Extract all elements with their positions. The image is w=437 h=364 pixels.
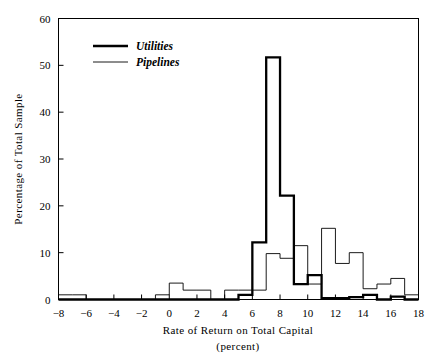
x-axis-tick-labels: −8−6−4−2024681012141618 <box>53 307 425 319</box>
legend-label-utilities: Utilities <box>136 40 174 52</box>
y-tick-label: 20 <box>40 200 52 212</box>
x-tick-label: −6 <box>80 307 92 319</box>
y-tick-label: 50 <box>40 59 52 71</box>
x-tick-label: 2 <box>194 307 200 319</box>
x-tick-label: 14 <box>358 307 370 319</box>
histogram-figure: 0102030405060 −8−6−4−2024681012141618 Pe… <box>0 0 437 364</box>
legend-label-pipelines: Pipelines <box>136 56 180 69</box>
y-tick-label: 10 <box>40 247 52 259</box>
series-line-pipelines <box>59 228 419 299</box>
x-tick-label: −8 <box>53 307 65 319</box>
y-axis-title: Percentage of Total Sample <box>12 93 24 224</box>
y-tick-label: 0 <box>45 294 51 306</box>
x-axis-title: Rate of Return on Total Capital <box>163 324 313 336</box>
y-tick-label: 40 <box>40 106 52 118</box>
y-axis-tick-labels: 0102030405060 <box>40 13 52 306</box>
x-tick-label: 4 <box>222 307 228 319</box>
x-tick-label: 12 <box>330 307 341 319</box>
series-line-utilities <box>59 57 419 299</box>
plot-frame <box>59 19 419 300</box>
y-tick-label: 30 <box>40 153 52 165</box>
y-axis-ticks <box>59 19 64 300</box>
legend: Utilities Pipelines <box>93 40 180 69</box>
x-tick-label: 8 <box>277 307 283 319</box>
y-tick-label: 60 <box>40 13 52 25</box>
x-tick-label: −4 <box>108 307 120 319</box>
x-axis-subtitle: (percent) <box>216 340 259 353</box>
x-tick-label: 10 <box>302 307 314 319</box>
x-tick-label: 16 <box>385 307 397 319</box>
x-tick-label: 0 <box>167 307 173 319</box>
x-tick-label: 6 <box>250 307 256 319</box>
chart-canvas: 0102030405060 −8−6−4−2024681012141618 Pe… <box>0 0 437 364</box>
x-tick-label: 18 <box>413 307 425 319</box>
x-tick-label: −2 <box>136 307 148 319</box>
